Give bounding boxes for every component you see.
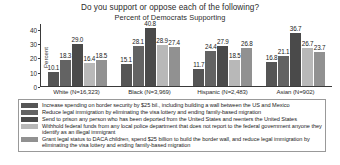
bar[interactable] [84,63,95,86]
y-tick-mark [38,44,41,45]
bar-value-label: 40.8 [144,20,156,27]
bar-group: 15.128.140.828.927.4 [114,24,187,86]
bar-column: 15.1 [121,24,132,86]
bar[interactable] [217,46,228,86]
bar[interactable] [302,48,313,86]
chart-subtitle: Percent of Democrats Supporting [0,13,340,22]
bar-value-label: 15.1 [120,56,132,63]
bar-group: 11.724.427.918.526.8 [187,24,260,86]
legend-item-label: Increase spending on border security by … [42,102,289,108]
bar-column: 28.9 [157,24,168,86]
bar[interactable] [60,60,71,86]
bar-group: 10.118.329.016.418.5 [41,24,114,86]
legend-color-swatch [21,124,38,129]
bar-value-label: 28.9 [156,37,168,44]
y-tick-mark [38,73,41,74]
bar[interactable] [193,69,204,86]
legend-color-swatch [21,117,38,122]
bar-value-label: 26.8 [241,40,253,47]
bar-value-label: 26.7 [302,40,314,47]
y-tick-label: 10 [30,69,37,76]
bar-value-label: 27.9 [217,38,229,45]
x-axis-line [40,86,332,87]
bar-column: 16.4 [84,24,95,86]
bar[interactable] [278,56,289,86]
chart-legend: Increase spending on border security by … [18,99,326,152]
bar[interactable] [314,52,325,86]
chart-figure: Do you support or oppose each of the fol… [0,0,340,165]
bar[interactable] [169,47,180,86]
legend-item[interactable]: Increase spending on border security by … [21,102,323,108]
y-tick-mark [38,30,41,31]
plot-area: Percent 010203040 10.118.329.016.418.515… [40,24,332,87]
chart-title-block: Do you support or oppose each of the fol… [0,3,340,22]
x-axis-tick-labels: White (N=16,323)Black (N=3,969)Hispanic … [40,88,332,95]
bar-value-label: 16.4 [84,55,96,62]
bar-column: 24.4 [205,24,216,86]
bar-column: 18.5 [229,24,240,86]
legend-item-label: Reduce legal immigration by eliminating … [42,109,261,115]
bar-column: 40.8 [145,24,156,86]
y-tick-label: 20 [30,55,37,62]
bar[interactable] [145,28,156,86]
bar-value-label: 21.1 [278,48,290,55]
bar-value-label: 36.7 [290,25,302,32]
bar-value-label: 16.8 [266,54,278,61]
bar[interactable] [48,72,59,86]
bar-column: 10.1 [48,24,59,86]
legend-color-swatch [21,110,38,115]
bar-value-label: 18.3 [60,52,72,59]
bar[interactable] [290,33,301,86]
bar-column: 18.3 [60,24,71,86]
bar[interactable] [241,48,252,86]
bar-column: 18.5 [96,24,107,86]
legend-color-swatch [21,137,38,142]
bar-column: 23.7 [314,24,325,86]
bar[interactable] [121,64,132,86]
chart-title: Do you support or oppose each of the fol… [0,3,340,13]
bar[interactable] [229,60,240,86]
legend-item[interactable]: Grant legal status to DACA children, spe… [21,136,323,149]
bar-column: 29.0 [72,24,83,86]
bar-groups: 10.118.329.016.418.515.128.140.828.927.4… [41,24,332,86]
legend-item[interactable]: Send to prison any person who has been d… [21,116,323,122]
y-tick-label: 0 [33,84,37,91]
bar-column: 26.8 [241,24,252,86]
y-tick-label: 30 [30,41,37,48]
bar[interactable] [157,45,168,86]
bar-column: 26.7 [302,24,313,86]
legend-item-label: Withhold federal funds from any local po… [42,123,323,136]
legend-item-label: Grant legal status to DACA children, spe… [42,136,323,149]
bar-value-label: 23.7 [314,44,326,51]
bar[interactable] [133,46,144,86]
bar[interactable] [205,51,216,86]
x-tick-label: Hispanic (N=2,483) [186,88,259,95]
bar[interactable] [96,60,107,86]
x-tick-label: White (N=16,323) [40,88,113,95]
legend-item[interactable]: Withhold federal funds from any local po… [21,123,323,136]
bar-value-label: 24.4 [205,43,217,50]
x-tick-label: Black (N=3,969) [113,88,186,95]
bar-column: 27.9 [217,24,228,86]
bar-column: 11.7 [193,24,204,86]
bar-value-label: 28.1 [132,38,144,45]
bar-value-label: 18.5 [96,52,108,59]
bar-value-label: 11.7 [193,61,204,68]
y-tick-label: 40 [30,26,37,33]
bar-group: 16.821.136.726.723.7 [259,24,332,86]
legend-item[interactable]: Reduce legal immigration by eliminating … [21,109,323,115]
bar-column: 16.8 [266,24,277,86]
bar-column: 27.4 [169,24,180,86]
y-tick-mark [38,58,41,59]
x-tick-label: Asian (N=902) [259,88,332,95]
bar-column: 28.1 [133,24,144,86]
bar-column: 21.1 [278,24,289,86]
bar[interactable] [72,44,83,86]
bar[interactable] [266,62,277,86]
legend-item-label: Send to prison any person who has been d… [42,116,297,122]
legend-color-swatch [21,103,38,108]
bar-value-label: 10.1 [48,64,60,71]
bar-value-label: 29.0 [72,36,84,43]
bar-value-label: 18.5 [229,52,241,59]
bar-value-label: 27.4 [168,39,180,46]
